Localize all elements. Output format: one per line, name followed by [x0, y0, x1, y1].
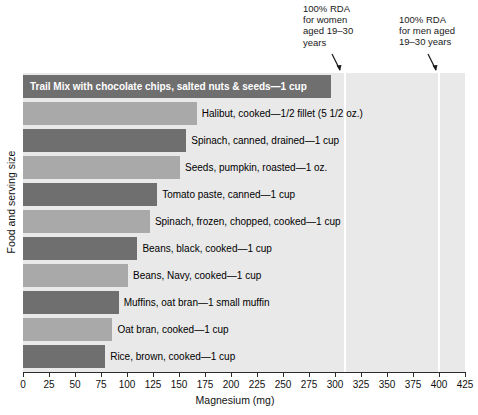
bar-label: Beans, Navy, cooked—1 cup [128, 264, 261, 287]
bar[interactable] [23, 345, 105, 368]
x-tick [283, 372, 284, 377]
bar-row[interactable]: Muffins, oat bran—1 small muffin [23, 291, 465, 314]
x-tick [413, 372, 414, 377]
bar-label: Halibut, cooked—1/2 fillet (5 1/2 oz.) [197, 102, 363, 125]
bar[interactable] [23, 318, 112, 341]
plot-area: Trail Mix with chocolate chips, salted n… [23, 73, 465, 372]
rda-men-annotation: 100% RDA for men aged 19–30 years [399, 14, 461, 48]
x-tick [335, 372, 336, 377]
x-tick [309, 372, 310, 377]
x-tick [465, 372, 466, 377]
x-tick [361, 372, 362, 377]
bar-label: Seeds, pumpkin, roasted—1 oz. [180, 156, 327, 179]
bar-label: Trail Mix with chocolate chips, salted n… [23, 75, 307, 98]
x-axis-line [23, 372, 465, 373]
bar-row[interactable]: Trail Mix with chocolate chips, salted n… [23, 75, 465, 98]
bar-label: Spinach, frozen, chopped, cooked—1 cup [150, 210, 341, 233]
x-tick [231, 372, 232, 377]
bar-row[interactable]: Oat bran, cooked—1 cup [23, 318, 465, 341]
bar-row[interactable]: Tomato paste, canned—1 cup [23, 183, 465, 206]
x-tick [387, 372, 388, 377]
bar-row[interactable]: Beans, Navy, cooked—1 cup [23, 264, 465, 287]
x-tick [127, 372, 128, 377]
bar[interactable] [23, 210, 150, 233]
x-tick [101, 372, 102, 377]
bar-row[interactable]: Rice, brown, cooked—1 cup [23, 345, 465, 368]
x-tick [49, 372, 50, 377]
bar[interactable] [23, 237, 137, 260]
bar-row[interactable]: Beans, black, cooked—1 cup [23, 237, 465, 260]
bar-row[interactable]: Spinach, canned, drained—1 cup [23, 129, 465, 152]
bar-label: Tomato paste, canned—1 cup [157, 183, 295, 206]
bar-row[interactable]: Halibut, cooked—1/2 fillet (5 1/2 oz.) [23, 102, 465, 125]
y-axis-title: Food and serving size [5, 127, 17, 277]
bar-label: Rice, brown, cooked—1 cup [105, 345, 235, 368]
rda-men-arrow-icon [426, 52, 440, 74]
bar[interactable] [23, 183, 157, 206]
x-tick [23, 372, 24, 377]
bar-row[interactable]: Spinach, frozen, chopped, cooked—1 cup [23, 210, 465, 233]
bar-series: Trail Mix with chocolate chips, salted n… [23, 73, 465, 372]
x-tick [439, 372, 440, 377]
rda-women-arrow-icon [330, 52, 344, 74]
x-tick-label: 425 [450, 379, 478, 390]
bar[interactable] [23, 102, 197, 125]
x-tick [153, 372, 154, 377]
rda-women-annotation: 100% RDA for women aged 19–30 years [303, 3, 361, 48]
bar[interactable] [23, 129, 186, 152]
bar[interactable] [23, 291, 119, 314]
bar[interactable] [23, 156, 180, 179]
x-tick [179, 372, 180, 377]
x-tick [205, 372, 206, 377]
x-tick [75, 372, 76, 377]
x-tick [257, 372, 258, 377]
bar-label: Oat bran, cooked—1 cup [112, 318, 228, 341]
bar-row[interactable]: Seeds, pumpkin, roasted—1 oz. [23, 156, 465, 179]
bar-label: Spinach, canned, drained—1 cup [186, 129, 339, 152]
x-axis-title: Magnesium (mg) [0, 394, 470, 406]
bar[interactable] [23, 264, 128, 287]
bar-label: Muffins, oat bran—1 small muffin [119, 291, 270, 314]
bar-label: Beans, black, cooked—1 cup [137, 237, 272, 260]
